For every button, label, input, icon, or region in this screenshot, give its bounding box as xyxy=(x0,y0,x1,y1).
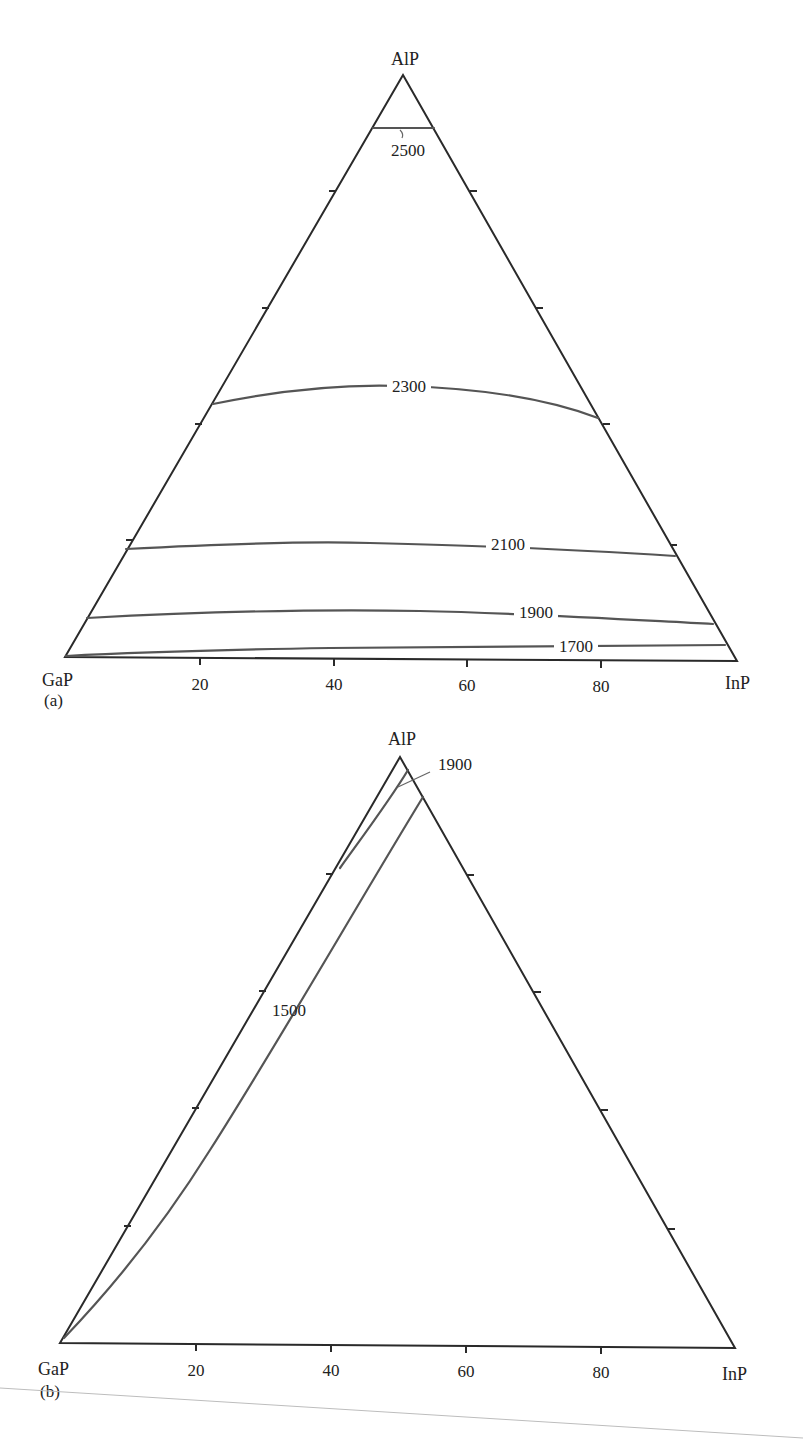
label-2500: 2500 xyxy=(391,141,425,160)
scan-artifact-line xyxy=(0,1388,803,1438)
label-2300: 2300 xyxy=(392,377,426,396)
panel-a: 2500 2300 2100 1900 1700 AlP GaP InP (a)… xyxy=(42,49,750,710)
triangle-b-frame xyxy=(60,757,735,1348)
vertex-alp-a: AlP xyxy=(391,49,419,69)
isotherm-1900-b xyxy=(340,770,408,868)
ternary-figure: 2500 2300 2100 1900 1700 AlP GaP InP (a)… xyxy=(0,0,803,1449)
vertex-inp-a: InP xyxy=(725,673,750,693)
tick-label-40-b: 40 xyxy=(323,1361,340,1380)
isotherm-1500-b xyxy=(64,797,423,1338)
tick-label-80-a: 80 xyxy=(593,677,610,696)
label-2100: 2100 xyxy=(491,535,525,554)
tick-label-60-b: 60 xyxy=(458,1362,475,1381)
right-edge-ticks-b xyxy=(467,875,675,1229)
isotherm-labels-a: 2500 2300 2100 1900 1700 xyxy=(387,141,598,656)
label-1700: 1700 xyxy=(559,637,593,656)
label-1900: 1900 xyxy=(519,603,553,622)
isotherm-2100-a xyxy=(126,542,675,556)
triangle-a-frame xyxy=(65,75,737,661)
tick-label-60-a: 60 xyxy=(459,676,476,695)
panel-b: 1900 1500 AlP GaP InP (b) 20 40 60 80 xyxy=(38,729,747,1401)
tick-label-80-b: 80 xyxy=(593,1363,610,1382)
vertex-gap-a: GaP xyxy=(42,670,73,690)
label-1900-b: 1900 xyxy=(438,755,472,774)
vertex-alp-b: AlP xyxy=(388,729,416,749)
isotherm-1700-a xyxy=(66,645,725,656)
label-1500-b: 1500 xyxy=(272,1001,306,1020)
tick-label-20-b: 20 xyxy=(188,1361,205,1380)
vertex-inp-b: InP xyxy=(722,1364,747,1384)
vertex-gap-b: GaP xyxy=(38,1359,69,1379)
isotherm-1900-a xyxy=(87,610,713,624)
panel-label-a: (a) xyxy=(44,691,63,710)
left-edge-ticks-a xyxy=(126,191,677,545)
tick-label-20-a: 20 xyxy=(192,675,209,694)
tick-label-40-a: 40 xyxy=(326,675,343,694)
